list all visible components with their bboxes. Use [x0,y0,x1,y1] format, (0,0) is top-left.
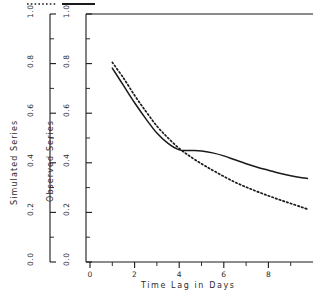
observed-ytick-00: 0.0 [62,252,71,266]
observed-ytick-04: 0.4 [62,153,71,167]
x-axis-spine [86,262,313,268]
line-simulated-series [112,62,307,209]
observed-ytick-1: 1.0 [62,4,71,18]
observed-axis-title: Observed Series [46,120,55,202]
observed-axis-spine [86,14,92,262]
simulated-ytick-04: 0.4 [26,153,35,167]
simulated-ytick-08: 0.8 [26,54,35,68]
observed-ytick-02: 0.2 [62,203,71,217]
line-observed-series [112,68,307,178]
xtick-0: 0 [88,270,93,279]
xtick-6: 6 [221,270,226,279]
simulated-ytick-06: 0.6 [26,103,35,117]
xtick-2: 2 [132,270,137,279]
xtick-4: 4 [177,270,182,279]
xtick-8: 8 [266,270,271,279]
x-axis-title: Time Lag in Days [141,281,236,290]
observed-ytick-06: 0.6 [62,103,71,117]
observed-ytick-08: 0.8 [62,54,71,68]
simulated-axis-title: Simulated Series [10,120,19,205]
simulated-ytick-00: 0.0 [26,252,35,266]
simulated-ytick-02: 0.2 [26,203,35,217]
chart-figure: Simulated Series Observed Series 1.0 0.8… [0,0,315,300]
simulated-ytick-1: 1.0 [26,4,35,18]
